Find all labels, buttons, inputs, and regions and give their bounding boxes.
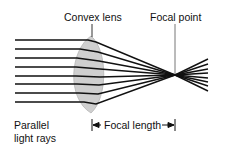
light-rays [15,40,208,104]
focal-point-label: Focal point [150,11,201,23]
convex-lens-label: Convex lens [64,11,122,23]
parallel-rays-label-line2: light rays [14,132,56,144]
parallel-rays-label-line1: Parallel [14,119,49,131]
focal-length-label: Focal length [104,119,161,131]
